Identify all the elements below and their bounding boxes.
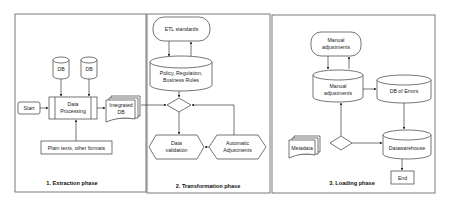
start-label: Start [24,105,36,111]
auto-label-2: Adjustments [223,147,252,153]
auto-label-1: Automatic [226,140,249,146]
manual-top-label-1: Manual [327,37,344,43]
etl-standards-label: ETL standards [165,26,199,32]
processing-label-1: Data [68,101,79,107]
policy-label-1: Policy, Regulation, [160,70,203,76]
manual-db-label-1: Manual [329,83,346,89]
plain-texts-label: Plain texts, other formats [48,145,106,151]
db2-label: DB [85,66,93,72]
panel-extraction: DB DB Start Data Processing Integrated [15,14,146,192]
integrated-label-1: Integrated [109,102,132,108]
phase-1-caption: 1. Extraction phase [46,180,97,186]
policy-label-2: Business Rules [163,77,199,83]
plain-texts-node: Plain texts, other formats [41,141,112,154]
db1-label: DB [57,66,65,72]
end-label: End [398,175,407,181]
validation-label-1: Data [171,140,182,146]
panel-transformation: ETL standards Policy, Regulation, Busine… [141,14,270,193]
manual-adjustments-terminator: Manual adjustments [311,32,361,56]
etl-standards-node: ETL standards [153,17,210,41]
phase-3-caption: 3. Loading phase [329,180,375,186]
manual-top-label-2: adjustments [322,44,350,50]
db-cylinder-2: DB [81,57,97,79]
phase-2-caption: 2. Transformation phase [176,183,241,189]
end-node: End [391,171,414,184]
metadata-label: Metadata [291,145,313,151]
manual-db-label-2: adjustments [324,90,352,96]
datawarehouse-db: Datawarehouse [383,130,431,159]
datawarehouse-label: Datawarehouse [389,145,425,151]
db-of-errors: DB of Errors [377,75,431,103]
policy-cylinder: Policy, Regulation, Business Rules [150,56,212,91]
panel-loading: Manual adjustments Manual adjustments DB… [272,15,435,193]
start-node: Start [18,102,40,114]
data-processing-node: Data Processing [49,97,97,119]
db-cylinder-1: DB [53,57,69,79]
integrated-db-node: Integrated DB [106,96,140,122]
manual-adjustments-db: Manual adjustments [313,70,363,102]
etl-diagram: DB DB Start Data Processing Integrated [0,0,450,204]
validation-label-2: validation [166,147,188,153]
db-errors-label: DB of Errors [390,88,419,94]
integrated-label-2: DB [117,109,125,115]
processing-label-2: Processing [60,108,86,114]
data-validation-node: Data validation [149,135,204,159]
automatic-adjustments-node: Automatic Adjustments [209,135,266,159]
